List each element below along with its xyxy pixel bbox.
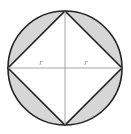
circle-inscribed-square-diagram: r r [0, 0, 131, 134]
radius-left-label: r [39, 57, 43, 67]
radius-right-label: r [84, 57, 88, 67]
geometry-figure: r r [0, 0, 131, 134]
